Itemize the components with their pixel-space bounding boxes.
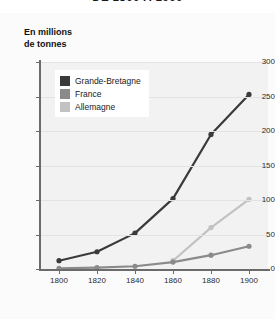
y-tick-label-250: 250	[241, 92, 275, 101]
x-tick-mark-1800	[59, 270, 60, 274]
x-tick-mark-1820	[97, 270, 98, 274]
x-tick-mark-1860	[173, 270, 174, 274]
legend-item-label: Grande-Bretagne	[75, 76, 141, 86]
y-tick-mark-100	[36, 200, 39, 201]
chart-title: DE 1800 À 1900	[0, 0, 275, 3]
legend-swatch-icon	[60, 89, 70, 99]
y-axis-caption-line-2: de tonnes	[24, 39, 72, 51]
y-axis-caption: En millions de tonnes	[24, 27, 72, 50]
data-point-france-1860	[170, 260, 175, 265]
x-tick-mark-1840	[135, 270, 136, 274]
chart-figure: DE 1800 À 1900 En millions de tonnes 050…	[0, 0, 275, 319]
legend-swatch-icon	[60, 76, 70, 86]
y-tick-label-150: 150	[241, 161, 275, 170]
legend-item-france: France	[60, 87, 141, 100]
data-point-grande-bretagne-1820	[94, 249, 99, 254]
gridline-y-150	[40, 166, 268, 167]
y-tick-label-300: 300	[241, 57, 275, 66]
gridline-y-200	[40, 131, 268, 132]
y-tick-label-50: 50	[241, 230, 275, 239]
legend-item-label: Allemagne	[75, 102, 115, 112]
y-tick-mark-0	[36, 269, 39, 270]
y-tick-label-200: 200	[241, 126, 275, 135]
x-axis-line	[39, 269, 270, 271]
data-point-allemagne-1880	[208, 225, 213, 230]
chart-legend: Grande-BretagneFranceAllemagne	[55, 70, 149, 117]
series-line-france	[59, 246, 249, 268]
legend-item-allemagne: Allemagne	[60, 100, 141, 113]
data-point-grande-bretagne-1880	[208, 132, 213, 137]
legend-swatch-icon	[60, 102, 70, 112]
data-point-france-1900	[246, 244, 251, 249]
y-tick-mark-200	[36, 131, 39, 132]
y-tick-mark-150	[36, 166, 39, 167]
y-tick-mark-50	[36, 235, 39, 236]
legend-item-label: France	[75, 89, 101, 99]
y-axis-caption-line-1: En millions	[24, 27, 72, 39]
gridline-y-50	[40, 235, 268, 236]
y-tick-mark-250	[36, 97, 39, 98]
series-line-grande-bretagne	[59, 94, 249, 260]
x-tick-label-1900: 1900	[227, 276, 271, 285]
data-point-france-1880	[208, 253, 213, 258]
y-tick-label-100: 100	[241, 195, 275, 204]
legend-item-grande-bretagne: Grande-Bretagne	[60, 74, 141, 87]
gridline-y-100	[40, 200, 268, 201]
chart-title-band: DE 1800 À 1900	[0, 0, 275, 13]
y-tick-mark-300	[36, 62, 39, 63]
x-tick-mark-1880	[211, 270, 212, 274]
y-tick-label-0: 0	[241, 264, 275, 273]
gridline-y-300	[40, 62, 268, 63]
x-tick-mark-1900	[249, 270, 250, 274]
y-axis-line	[39, 60, 41, 271]
data-point-grande-bretagne-1800	[56, 258, 61, 263]
